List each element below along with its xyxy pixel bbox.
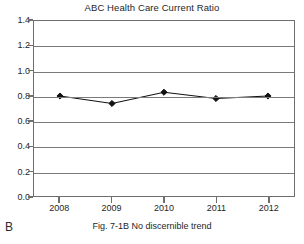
gridline [34,97,294,98]
x-tick-label: 2010 [154,203,174,213]
plot-area [33,20,295,197]
y-tick-label: 1.4 [2,15,30,25]
chart-title: ABC Health Care Current Ratio [0,2,304,13]
gridline [34,46,294,47]
y-axis-labels: 0.00.20.40.60.81.01.21.4 [0,20,30,197]
gridline [34,122,294,123]
x-tick-label: 2008 [49,203,69,213]
y-tick-label: 0.8 [2,91,30,101]
y-tick-label: 0.2 [2,167,30,177]
gridline [34,173,294,174]
gridline [34,147,294,148]
gridline [34,72,294,73]
x-tick-label: 2012 [259,203,279,213]
data-point-marker [161,89,167,95]
y-tick-label: 1.0 [2,66,30,76]
y-tick-label: 0.4 [2,141,30,151]
figure-panel-b: ABC Health Care Current Ratio 0.00.20.40… [0,0,304,244]
x-axis-labels: 20082009201020112012 [33,203,295,217]
x-tick-label: 2011 [207,203,226,213]
y-tick-label: 0.0 [2,192,30,202]
figure-caption: Fig. 7-1B No discernible trend [0,221,304,231]
data-point-marker [109,100,115,106]
y-tick-label: 1.2 [2,40,30,50]
x-tick-label: 2009 [102,203,122,213]
y-tick-label: 0.6 [2,116,30,126]
